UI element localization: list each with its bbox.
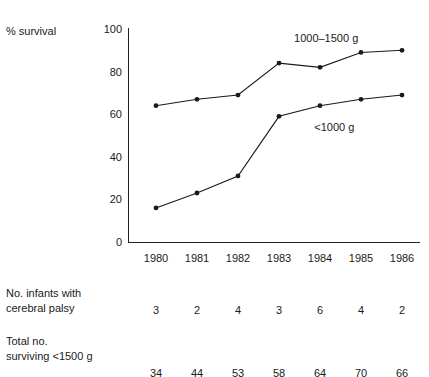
x-axis-tick-label: 1985 <box>349 252 373 264</box>
table-cell: 4 <box>235 304 241 316</box>
y-axis-tick-label: 60 <box>96 109 122 120</box>
y-axis-tick-label: 80 <box>96 66 122 77</box>
data-point <box>318 103 323 108</box>
series-label: 1000–1500 g <box>294 32 358 44</box>
data-point <box>277 61 282 66</box>
series-line <box>156 50 402 105</box>
y-axis-tick-label: 20 <box>96 194 122 205</box>
x-axis-tick-label: 1984 <box>308 252 332 264</box>
data-point <box>236 93 241 98</box>
table-cell: 44 <box>191 367 203 377</box>
table-row-label: Total no. surviving <1500 g <box>6 334 93 364</box>
series-lines <box>128 28 420 244</box>
survival-chart-figure: % survival 020406080100 1000–1500 g<1000… <box>0 0 429 377</box>
table-cell: 64 <box>314 367 326 377</box>
table-row-label-line2: cerebral palsy <box>6 301 81 316</box>
x-axis-tick-label: 1980 <box>144 252 168 264</box>
data-point <box>400 48 405 53</box>
data-point <box>318 65 323 70</box>
table-cell: 6 <box>317 304 323 316</box>
x-axis-tick-label: 1983 <box>267 252 291 264</box>
table-cell: 34 <box>150 367 162 377</box>
x-axis-tick-label: 1986 <box>390 252 414 264</box>
plot-area: 020406080100 1000–1500 g<1000 g <box>128 28 420 244</box>
table-row-label-line1: Total no. <box>6 334 93 349</box>
x-axis-tick-label: 1982 <box>226 252 250 264</box>
x-axis-tick-label: 1981 <box>185 252 209 264</box>
data-point <box>154 206 159 211</box>
y-axis-title: % survival <box>6 24 56 38</box>
table-row-label-line1: No. infants with <box>6 286 81 301</box>
series-label: <1000 g <box>314 121 354 133</box>
table-cell: 4 <box>358 304 364 316</box>
table-row-label: No. infants with cerebral palsy <box>6 286 81 316</box>
data-point <box>195 97 200 102</box>
y-axis-tick-label: 40 <box>96 151 122 162</box>
data-point <box>154 103 159 108</box>
y-axis-tick-label: 100 <box>96 24 122 35</box>
data-point <box>359 50 364 55</box>
table-cell: 3 <box>153 304 159 316</box>
table-cell: 2 <box>194 304 200 316</box>
table-cell: 66 <box>396 367 408 377</box>
data-point <box>195 191 200 196</box>
series-line <box>156 95 402 208</box>
table-cell: 70 <box>355 367 367 377</box>
table-cell: 3 <box>276 304 282 316</box>
table-cell: 53 <box>232 367 244 377</box>
table-cell: 58 <box>273 367 285 377</box>
data-point <box>359 97 364 102</box>
data-point <box>277 114 282 119</box>
y-axis-tick-label: 0 <box>96 237 122 248</box>
data-table: No. infants with cerebral palsy 3243642 … <box>0 286 429 377</box>
data-point <box>400 93 405 98</box>
table-row-label-line2: surviving <1500 g <box>6 349 93 364</box>
table-cell: 2 <box>399 304 405 316</box>
data-point <box>236 174 241 179</box>
